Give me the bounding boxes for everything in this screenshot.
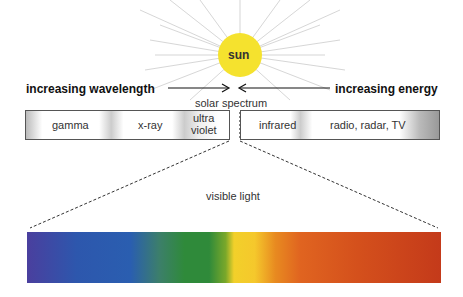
band-ultraviolet-line2: violet: [191, 125, 217, 136]
band-ultraviolet-line1: ultra: [193, 113, 214, 124]
band-infrared: infrared: [259, 120, 296, 131]
visible-spectrum-bar: [27, 232, 441, 283]
increasing-energy-label: increasing energy: [335, 82, 438, 96]
increasing-wavelength-label: increasing wavelength: [26, 82, 155, 96]
solar-spectrum-label: solar spectrum: [195, 97, 267, 109]
band-gamma: gamma: [52, 120, 89, 131]
band-x-ray: x-ray: [138, 120, 162, 131]
sun-label: sun: [228, 48, 249, 62]
band-radio-radar-tv: radio, radar, TV: [330, 120, 406, 131]
visible-light-label: visible light: [206, 190, 260, 202]
